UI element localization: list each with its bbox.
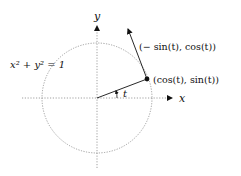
x-axis-label: x: [179, 92, 186, 105]
y-axis-label: y: [93, 10, 101, 23]
circle-equation-label: x² + y² = 1: [10, 59, 65, 70]
angle-arc: [116, 91, 117, 98]
angle-label: t: [123, 88, 128, 99]
point-label: (cos(t), sin(t)): [153, 74, 219, 85]
unit-circle-figure: y x t x² + y² = 1 (− sin(t), cos(t)) (co…: [0, 0, 241, 176]
tangent-vector-label: (− sin(t), cos(t)): [139, 41, 216, 52]
tangent-vector: [128, 29, 147, 79]
point-marker: [145, 77, 150, 82]
radius-line: [97, 79, 147, 98]
